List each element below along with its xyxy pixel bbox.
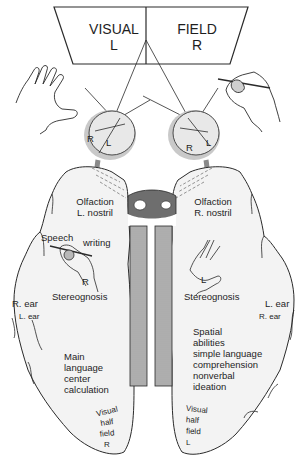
field-text: field — [186, 426, 208, 438]
right-hand-l-label: L — [201, 275, 206, 285]
left-eye-l-label: L — [106, 138, 111, 148]
nostril-text: L. nostril — [70, 207, 120, 218]
function-item: language — [64, 362, 109, 373]
right-functions-list: Spatial abilities simple language compre… — [193, 326, 262, 392]
left-eye-r-label: R — [87, 134, 94, 144]
function-item: abilities — [193, 337, 262, 348]
function-item: comprehension — [193, 359, 262, 370]
olfaction-text: Olfaction — [186, 196, 240, 207]
diagram-graphics — [0, 0, 308, 462]
right-eye-drawing — [168, 110, 220, 160]
visual-word: VISUAL — [82, 22, 146, 36]
left-hand-drawing — [16, 66, 77, 134]
speech-label: Speech — [41, 233, 73, 243]
visual-field-left-label: VISUAL L — [82, 22, 146, 52]
nostril-text: R. nostril — [186, 207, 240, 218]
function-item: ideation — [193, 381, 262, 392]
optic-chiasm — [128, 190, 176, 226]
split-brain-diagram: VISUAL L FIELD R R L R L Olfaction L. no… — [0, 0, 308, 462]
left-ear-secondary-label: L. ear — [19, 313, 39, 321]
corpus-callosum-cut — [130, 226, 172, 386]
right-ear-primary-label: L. ear — [265, 299, 289, 309]
right-hand-drawing — [218, 72, 280, 132]
side-letter: R — [92, 439, 122, 450]
left-ear-primary-label: R. ear — [12, 299, 38, 309]
writing-label: writing — [83, 238, 110, 248]
function-item: simple language — [193, 348, 262, 359]
left-visual-half-field-label: Visual half field R — [92, 406, 122, 450]
right-visual-half-field-label: Visual half field L — [186, 404, 208, 448]
right-eye-l-label: L — [206, 138, 211, 148]
left-functions-list: Main language center calculation — [64, 351, 109, 395]
visual-field-right-label: FIELD R — [172, 22, 222, 52]
right-stereognosis-label: Stereognosis — [184, 292, 239, 302]
function-item: calculation — [64, 384, 109, 395]
right-olfaction-label: Olfaction R. nostril — [186, 196, 240, 218]
left-stereognosis-label: Stereognosis — [52, 292, 107, 302]
function-item: center — [64, 373, 109, 384]
right-ear-secondary-label: R. ear — [259, 313, 281, 321]
left-letter: L — [82, 38, 146, 52]
field-word: FIELD — [172, 22, 222, 36]
olfaction-text: Olfaction — [70, 196, 120, 207]
left-hand-r-label: R — [82, 277, 89, 287]
side-letter: L — [186, 437, 208, 448]
right-letter: R — [172, 38, 222, 52]
function-item: nonverbal — [193, 370, 262, 381]
left-olfaction-label: Olfaction L. nostril — [70, 196, 120, 218]
function-item: Main — [64, 351, 109, 362]
right-eye-r-label: R — [186, 143, 193, 153]
function-item: Spatial — [193, 326, 262, 337]
